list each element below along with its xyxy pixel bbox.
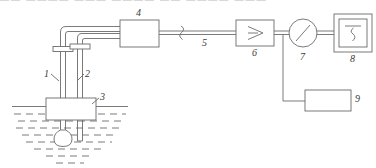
probe-tube-left (61, 27, 121, 101)
sensor-housing (46, 98, 99, 120)
amplifier (236, 20, 274, 46)
probe-tube-right (78, 34, 121, 101)
transmitter-box (120, 20, 159, 47)
schematic-canvas: 1 2 3 4 5 6 7 8 9 (0, 0, 376, 168)
power-supply (305, 90, 351, 111)
leader-line-1 (51, 74, 59, 81)
label-5: 5 (202, 37, 207, 48)
label-7: 7 (300, 51, 306, 62)
chart-recorder (334, 14, 372, 52)
label-6: 6 (252, 47, 257, 58)
amplifier-to-gauge-link (274, 31, 290, 35)
label-3: 3 (99, 91, 105, 102)
gauge-meter (289, 19, 317, 47)
label-1: 1 (44, 68, 49, 79)
label-2: 2 (85, 68, 90, 79)
tube-collar-right (70, 44, 90, 49)
probe-immersed-left (54, 120, 72, 147)
gauge-to-recorder-link (317, 31, 334, 35)
probe-immersed-right (78, 120, 83, 141)
label-9: 9 (355, 93, 360, 104)
signal-cable (159, 26, 236, 40)
figure-schematic: ▬▬ ▬▬▬▬ ▬▬▬ ▬▬▬▬ ▬▬ ▬▬▬▬ ▬▬▬ (0, 0, 376, 168)
label-4: 4 (136, 7, 141, 18)
label-8: 8 (350, 53, 355, 64)
